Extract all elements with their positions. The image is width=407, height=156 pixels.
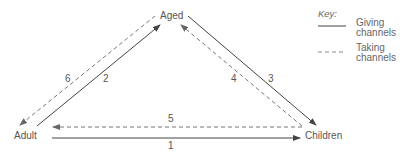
key-taking-label-2: channels <box>356 53 396 63</box>
node-aged: Aged <box>160 10 183 21</box>
channel-4-line <box>181 25 302 126</box>
channel-3-label: 3 <box>268 73 274 84</box>
node-children: Children <box>305 130 342 141</box>
key-title: Key: <box>318 8 337 19</box>
channel-1-label: 1 <box>168 140 174 151</box>
channel-4-label: 4 <box>231 73 237 84</box>
diagram-canvas <box>0 0 407 156</box>
channel-5-label: 5 <box>168 113 174 124</box>
node-adult: Adult <box>14 130 37 141</box>
key-giving-label-2: channels <box>356 28 396 38</box>
channel-6-line <box>20 16 155 125</box>
channel-6-label: 6 <box>65 73 71 84</box>
channel-2-line <box>37 25 160 126</box>
channel-2-label: 2 <box>103 73 109 84</box>
channel-3-line <box>188 16 316 125</box>
